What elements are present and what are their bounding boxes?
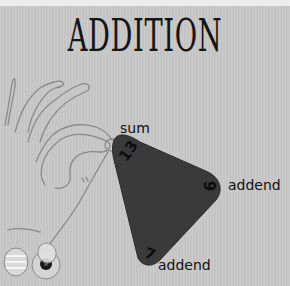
addend-bottom-label: addend — [158, 257, 211, 273]
addend-right-value: 6 — [202, 181, 220, 191]
sum-label: sum — [120, 120, 150, 136]
illustration — [0, 0, 290, 286]
addition-fact-triangle-card: ADDITION — [0, 0, 290, 286]
hand-illustration — [5, 79, 119, 250]
bracelet-illustration — [4, 241, 60, 279]
addend-right-label: addend — [228, 177, 281, 193]
